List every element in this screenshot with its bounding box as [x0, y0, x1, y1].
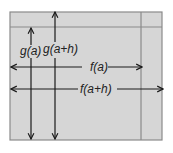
label-g-a: g(a) — [20, 44, 41, 58]
label-f-a-h: f(a+h) — [80, 82, 112, 96]
outer-rectangle — [10, 12, 162, 140]
label-f-a: f(a) — [90, 60, 108, 74]
area-increment-diagram: g(a) g(a+h) f(a) f(a+h) — [0, 0, 173, 153]
label-g-a-h: g(a+h) — [43, 42, 78, 56]
